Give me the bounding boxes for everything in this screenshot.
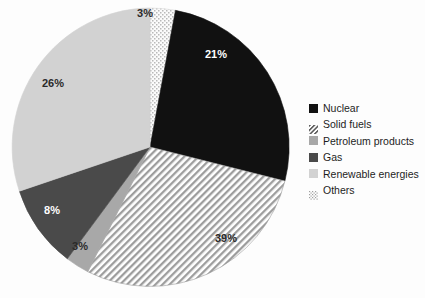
legend-item-gas[interactable]: Gas: [309, 149, 421, 165]
slice-label-petroleum-products: 3%: [72, 240, 88, 252]
legend-label-solid-fuels: Solid fuels: [323, 119, 371, 130]
slice-label-solid-fuels: 39%: [215, 232, 237, 244]
legend-label-others: Others: [323, 185, 355, 196]
slice-label-gas: 8%: [44, 204, 60, 216]
dark-gray-swatch: [309, 153, 318, 162]
slice-label-nuclear: 21%: [205, 48, 227, 60]
chart-legend: Nuclear Solid fuels Petroleum products G…: [309, 100, 421, 198]
pie-slices: [12, 8, 289, 286]
legend-label-petroleum-products: Petroleum products: [323, 136, 414, 147]
slice-label-others: 3%: [137, 7, 153, 19]
solid-black-swatch: [309, 104, 318, 113]
legend-item-others[interactable]: Others: [309, 182, 421, 198]
legend-item-solid-fuels[interactable]: Solid fuels: [309, 116, 421, 132]
slice-label-renewable-energies: 26%: [42, 77, 64, 89]
legend-item-nuclear[interactable]: Nuclear: [309, 100, 421, 116]
legend-item-petroleum-products[interactable]: Petroleum products: [309, 133, 421, 149]
pie-chart-figure: 21% 39% 3% 8% 26% 3% Nuclear Solid fuels…: [0, 0, 425, 298]
light-gray-swatch: [309, 169, 318, 178]
diagonal-hatch-swatch: [309, 120, 318, 129]
legend-label-nuclear: Nuclear: [323, 103, 359, 114]
legend-label-renewable-energies: Renewable energies: [323, 169, 419, 180]
legend-label-gas: Gas: [323, 152, 342, 163]
medium-gray-swatch: [309, 136, 318, 145]
legend-item-renewable-energies[interactable]: Renewable energies: [309, 166, 421, 182]
dotted-swatch: [309, 186, 318, 195]
